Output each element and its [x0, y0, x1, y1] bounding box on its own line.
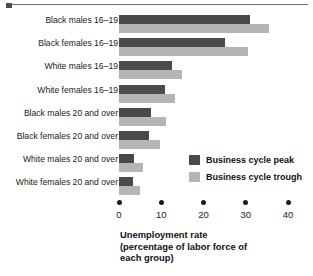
x-tick-marker	[286, 200, 291, 205]
category-label: Black males 16–19	[0, 15, 118, 26]
chart-row: Black males 16–19	[0, 15, 313, 36]
x-axis-title-line: each group)	[120, 252, 310, 264]
x-tick-marker	[243, 200, 248, 205]
category-label: White males 20 and over	[0, 154, 118, 165]
bar-peak	[119, 61, 172, 70]
x-axis-title-line: Unemployment rate	[120, 229, 310, 241]
x-tick-marker	[201, 200, 206, 205]
category-label: Black females 20 and over	[0, 131, 118, 142]
x-axis: 010203040	[0, 200, 313, 224]
chart-row: White males 16–19	[0, 61, 313, 82]
x-tick-marker	[159, 200, 164, 205]
bar-trough	[119, 186, 140, 195]
bar-peak	[119, 85, 165, 94]
bar-peak	[119, 154, 134, 163]
bar-trough	[119, 140, 160, 149]
bar-peak	[119, 177, 133, 186]
bar-peak	[119, 15, 250, 24]
bar-trough	[119, 94, 175, 103]
bar-peak	[119, 108, 151, 117]
chart-row: Black females 20 and over	[0, 131, 313, 152]
category-label: Black males 20 and over	[0, 108, 118, 119]
bar-peak	[119, 131, 149, 140]
bar-trough	[119, 163, 143, 172]
x-tick-marker	[117, 200, 122, 205]
legend-item: Business cycle trough	[189, 170, 311, 185]
chart-row: Black females 16–19	[0, 38, 313, 59]
legend-label: Business cycle trough	[206, 170, 302, 184]
legend-item: Business cycle peak	[189, 153, 311, 168]
bar-trough	[119, 24, 269, 33]
chart-legend: Business cycle peakBusiness cycle trough	[189, 153, 311, 187]
x-tick-label: 10	[146, 209, 176, 221]
bar-trough	[119, 47, 248, 56]
x-tick-label: 30	[231, 209, 261, 221]
x-tick-label: 0	[104, 209, 134, 221]
chart-row: Black males 20 and over	[0, 108, 313, 129]
legend-swatch-trough-icon	[189, 172, 200, 182]
category-label: White females 16–19	[0, 85, 118, 96]
bar-trough	[119, 117, 166, 126]
category-label: White males 16–19	[0, 61, 118, 72]
x-tick-label: 20	[189, 209, 219, 221]
bar-peak	[119, 38, 225, 47]
chart-row: White females 16–19	[0, 85, 313, 106]
legend-swatch-peak-icon	[189, 155, 200, 165]
x-tick-label: 40	[273, 209, 303, 221]
bar-trough	[119, 70, 182, 79]
unemployment-rate-bar-chart: Black males 16–19Black females 16–19Whit…	[0, 0, 313, 276]
category-label: White females 20 and over	[0, 177, 118, 188]
x-axis-title: Unemployment rate(percentage of labor fo…	[120, 229, 310, 264]
x-axis-title-line: (percentage of labor force of	[120, 241, 310, 253]
category-label: Black females 16–19	[0, 38, 118, 49]
legend-label: Business cycle peak	[206, 153, 294, 167]
